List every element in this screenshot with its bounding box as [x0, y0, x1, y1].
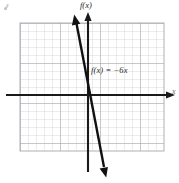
- grid: [20, 23, 164, 151]
- y-axis-label: f(x): [80, 1, 92, 10]
- equation-label: f(x) = −6x: [91, 66, 128, 75]
- x-axis-label: x: [172, 88, 176, 96]
- graph-canvas: [0, 0, 179, 183]
- function-graph-figure: f(x) x f(x) = −6x: [0, 0, 179, 183]
